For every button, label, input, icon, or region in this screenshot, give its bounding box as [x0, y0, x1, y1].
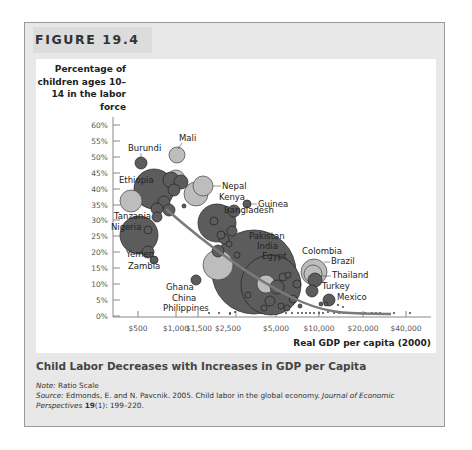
svg-text:$500: $500	[128, 324, 147, 333]
bubble-burundi	[135, 157, 147, 169]
source-line: Source: Edmonds, E. and N. Pavcnik. 2005…	[36, 391, 436, 411]
svg-text:Pakistan: Pakistan	[249, 231, 285, 241]
svg-text:25%: 25%	[91, 232, 108, 241]
svg-text:45%: 45%	[91, 169, 108, 178]
svg-text:Tanzania: Tanzania	[113, 211, 151, 221]
bubble-chart: 60% 55% 50% 45% 40% 35% 30% 25% 20% 15% …	[36, 59, 436, 353]
svg-text:15%: 15%	[91, 264, 108, 273]
svg-text:Brazil: Brazil	[331, 256, 355, 266]
svg-text:Philippines: Philippines	[163, 303, 209, 313]
svg-text:Yemen: Yemen	[125, 249, 154, 259]
svg-text:Egypt: Egypt	[262, 251, 287, 261]
svg-text:China: China	[172, 293, 196, 303]
bubble-philippines	[265, 296, 275, 306]
svg-text:Nepal: Nepal	[222, 181, 247, 191]
svg-text:0%: 0%	[96, 312, 108, 321]
svg-text:Ethiopia: Ethiopia	[119, 175, 154, 185]
figure-label: FIGURE 19.4	[33, 27, 152, 53]
bubble-tanzania	[120, 190, 142, 212]
bubble-turkey	[306, 285, 318, 297]
svg-text:$1,500: $1,500	[186, 324, 212, 333]
svg-text:Turkey: Turkey	[321, 281, 350, 291]
svg-text:Kenya: Kenya	[219, 192, 245, 202]
figure-note: Note: Ratio Scale Source: Edmonds, E. an…	[36, 381, 436, 411]
svg-text:35%: 35%	[91, 201, 108, 210]
svg-text:Colombia: Colombia	[302, 246, 342, 256]
svg-text:$5,000: $5,000	[263, 324, 289, 333]
svg-text:Zambia: Zambia	[128, 261, 160, 271]
svg-text:55%: 55%	[91, 137, 108, 146]
svg-text:Mexico: Mexico	[337, 292, 367, 302]
svg-text:10%: 10%	[91, 280, 108, 289]
svg-text:Burundi: Burundi	[128, 143, 161, 153]
bubble-nepal	[193, 176, 213, 196]
svg-text:$10,000: $10,000	[303, 324, 334, 333]
bubbles	[120, 147, 335, 315]
svg-text:$2,500: $2,500	[215, 324, 241, 333]
y-ticks: 60% 55% 50% 45% 40% 35% 30% 25% 20% 15% …	[91, 121, 120, 321]
svg-text:Ghana: Ghana	[166, 282, 194, 292]
svg-text:60%: 60%	[91, 121, 108, 130]
svg-text:India: India	[257, 241, 278, 251]
svg-text:Mali: Mali	[179, 133, 196, 143]
svg-text:40%: 40%	[91, 185, 108, 194]
x-axis-title: Real GDP per capita (2000)	[293, 338, 431, 348]
svg-text:20%: 20%	[91, 248, 108, 257]
svg-text:Nigeria: Nigeria	[111, 222, 141, 232]
bubble-thailand	[308, 273, 322, 287]
svg-text:$20,000: $20,000	[347, 324, 378, 333]
svg-text:Thailand: Thailand	[331, 270, 369, 280]
svg-text:5%: 5%	[96, 296, 108, 305]
svg-text:$40,000: $40,000	[390, 324, 421, 333]
figure-frame: FIGURE 19.4 Percentage of children ages …	[24, 22, 445, 427]
bubble-mali	[169, 147, 185, 163]
caption-title: Child Labor Decreases with Increases in …	[36, 360, 366, 372]
note-line: Note: Ratio Scale	[36, 381, 436, 391]
svg-text:Guinea: Guinea	[258, 199, 288, 209]
svg-text:50%: 50%	[91, 153, 108, 162]
chart-panel: Percentage of children ages 10–14 in the…	[36, 59, 436, 353]
svg-text:30%: 30%	[91, 216, 108, 225]
